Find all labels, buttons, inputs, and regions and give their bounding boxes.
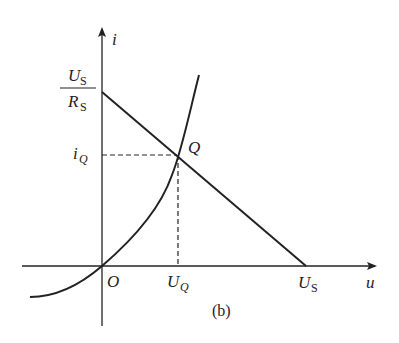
rs-denominator: R xyxy=(67,92,79,111)
y-axis-label: i xyxy=(112,30,117,49)
x-axis-label: u xyxy=(366,273,375,292)
uq-label-sub: Q xyxy=(180,280,189,294)
iv-diagram: i U S R S i Q Q O U Q U S u (b) xyxy=(0,0,399,343)
iq-label-sub: Q xyxy=(79,152,88,166)
iq-label: i xyxy=(73,144,78,163)
uq-label: U xyxy=(167,272,181,291)
us-numerator-sub: S xyxy=(80,74,87,88)
origin-label: O xyxy=(107,272,119,291)
q-point-label: Q xyxy=(188,138,200,157)
load-line xyxy=(102,92,306,266)
figure-caption: (b) xyxy=(212,302,231,320)
rs-denominator-sub: S xyxy=(80,100,87,114)
characteristic-curve xyxy=(30,75,199,297)
us-x-label: U xyxy=(298,273,312,292)
us-x-label-sub: S xyxy=(311,281,318,295)
